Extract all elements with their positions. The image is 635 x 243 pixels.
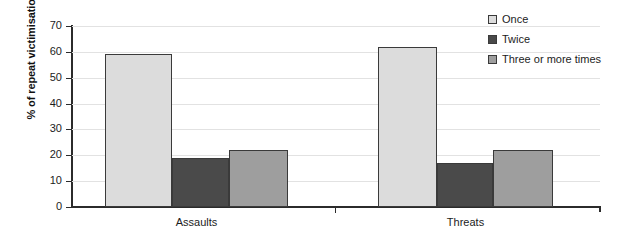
legend-label: Three or more times	[502, 54, 601, 65]
legend-swatch-icon	[488, 55, 497, 64]
y-axis-tick-label: 10	[32, 175, 62, 186]
legend-label: Once	[502, 14, 528, 25]
y-axis-tick	[66, 181, 72, 182]
bar	[172, 158, 229, 207]
y-axis-tick	[66, 78, 72, 79]
legend-item[interactable]: Once	[488, 10, 633, 28]
legend-item[interactable]: Twice	[488, 30, 633, 48]
y-axis-tick-label: 30	[32, 123, 62, 134]
x-axis-category-label: Threats	[447, 216, 484, 228]
y-axis-tick	[66, 207, 72, 208]
bar	[493, 150, 553, 207]
y-axis-tick-label: 0	[32, 201, 62, 212]
legend-label: Twice	[502, 34, 530, 45]
bar-chart: % of repeat victimisation 01020304050607…	[0, 0, 635, 243]
y-axis-tick	[66, 129, 72, 130]
y-axis-tick-label: 50	[32, 72, 62, 83]
y-axis-tick-label: 70	[32, 20, 62, 31]
y-axis-tick-label: 40	[32, 98, 62, 109]
chart-legend: OnceTwiceThree or more times	[488, 10, 633, 70]
legend-item[interactable]: Three or more times	[488, 50, 633, 68]
y-axis-tick	[66, 52, 72, 53]
legend-swatch-icon	[488, 15, 497, 24]
y-axis-tick	[66, 26, 72, 27]
y-axis-tick-label: 20	[32, 149, 62, 160]
y-axis-tick	[66, 155, 72, 156]
x-axis-separator-tick	[335, 208, 336, 213]
bar	[229, 150, 288, 207]
x-axis-category-label: Assaults	[176, 216, 218, 228]
bar	[437, 163, 493, 207]
y-axis-tick-label: 60	[32, 46, 62, 57]
legend-swatch-icon	[488, 35, 497, 44]
y-axis-tick	[66, 104, 72, 105]
bar	[378, 47, 437, 207]
bar	[105, 54, 172, 207]
